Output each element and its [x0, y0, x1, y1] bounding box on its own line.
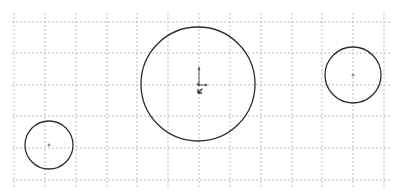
- shapes-layer: [25, 27, 381, 169]
- arrow-cursor-icon: [198, 89, 202, 93]
- sketch-canvas[interactable]: [0, 0, 395, 194]
- arrow-cursor-icon: [198, 89, 202, 93]
- origin-point-icon: [198, 84, 200, 86]
- grid: [12, 13, 390, 189]
- origin-axes-icon: [198, 67, 209, 87]
- y-axis-arrow-icon: [198, 67, 201, 70]
- x-axis-arrow-icon: [205, 84, 208, 87]
- circle-small[interactable]: [25, 121, 73, 169]
